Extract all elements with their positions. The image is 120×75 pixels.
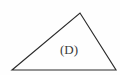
triangle-outline <box>12 13 116 70</box>
figure-container: (D) <box>0 0 120 75</box>
triangle-diagram <box>0 0 120 75</box>
